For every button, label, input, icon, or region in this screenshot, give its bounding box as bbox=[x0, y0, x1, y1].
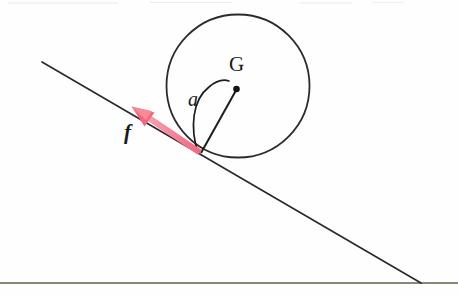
label-center-of-gravity: G bbox=[229, 52, 244, 77]
physics-diagram-canvas: G a f bbox=[0, 0, 458, 297]
diagram-svg bbox=[0, 0, 458, 297]
friction-force-vector bbox=[132, 107, 201, 153]
wheel-circle bbox=[167, 15, 310, 158]
label-angle: a bbox=[188, 88, 198, 111]
scan-artifact-top bbox=[8, 3, 404, 4]
center-of-gravity-point bbox=[233, 86, 240, 93]
angle-arc bbox=[193, 80, 229, 153]
radius-line bbox=[201, 90, 237, 154]
incline-line bbox=[42, 62, 421, 283]
label-friction-force: f bbox=[124, 120, 131, 145]
